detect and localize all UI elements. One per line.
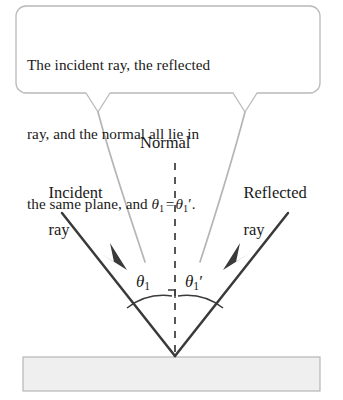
angle-arc-incident — [127, 295, 172, 308]
reflected-ray-label: Reflected ray — [227, 166, 307, 258]
incident-ray-label-line2: ray — [49, 220, 70, 239]
equation-left-symbol: θ — [152, 195, 160, 212]
figure-canvas: The incident ray, the reflected ray, and… — [0, 0, 343, 400]
equation-left-subscript: 1 — [159, 203, 164, 214]
angle-arc-reflected — [178, 295, 223, 308]
angle-tick-mark — [168, 290, 175, 298]
mirror-surface — [23, 357, 320, 391]
incident-ray-label-line1: Incident — [49, 183, 103, 202]
normal-label: Normal — [140, 134, 190, 152]
incident-ray-label: Incident ray — [32, 166, 103, 258]
angle-label-reflected: θ1′ — [185, 272, 203, 294]
angle-label-reflected-prime: ′ — [199, 272, 203, 291]
equation-relation: = — [166, 195, 175, 212]
angle-label-incident-subscript: 1 — [144, 280, 150, 293]
reflected-ray-label-line1: Reflected — [244, 183, 307, 202]
equation-terminator: . — [192, 195, 196, 212]
equation-right-symbol: θ — [176, 195, 184, 212]
reflected-ray-label-line2: ray — [244, 220, 265, 239]
angle-label-incident: θ1 — [136, 272, 150, 294]
callout-line-1: The incident ray, the reflected — [27, 53, 313, 76]
